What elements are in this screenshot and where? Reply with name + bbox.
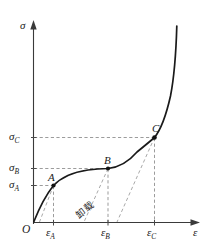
point-marker-c: [152, 135, 157, 140]
point-label-a: A: [48, 172, 55, 183]
y-tick-sub-sigma-a: A: [14, 184, 19, 193]
point-marker-b: [106, 166, 110, 170]
x-tick-sub-eps-b: B: [105, 232, 110, 241]
y-tick-label-sigma-b: σB: [9, 162, 19, 176]
unloading-lines-group: [40, 138, 155, 223]
x-axis-arrow-icon: [191, 219, 201, 225]
y-axis-label: σ: [20, 20, 25, 31]
figure-canvas: [0, 0, 209, 247]
unloading-line-c: [117, 138, 155, 223]
point-label-c: C: [152, 123, 159, 134]
x-tick-label-eps-c: εC: [147, 227, 156, 241]
stress-strain-figure: σ ε O σC σB σA εA εB εC A B C 卸载: [0, 0, 209, 247]
y-axis-arrow-icon: [30, 20, 36, 30]
x-tick-label-eps-a: εA: [46, 227, 55, 241]
origin-label: O: [22, 224, 30, 236]
y-tick-sub-sigma-c: C: [14, 136, 19, 145]
point-label-b: B: [104, 155, 111, 166]
point-marker-a: [51, 183, 55, 187]
x-tick-label-eps-b: εB: [101, 227, 110, 241]
x-tick-sub-eps-c: C: [151, 232, 156, 241]
x-tick-sub-eps-a: A: [50, 232, 55, 241]
y-tick-sub-sigma-b: B: [14, 167, 19, 176]
x-axis-label: ε: [193, 227, 197, 238]
y-tick-label-sigma-a: σA: [9, 179, 19, 193]
y-tick-label-sigma-c: σC: [9, 131, 19, 145]
axes-group: [30, 20, 200, 226]
